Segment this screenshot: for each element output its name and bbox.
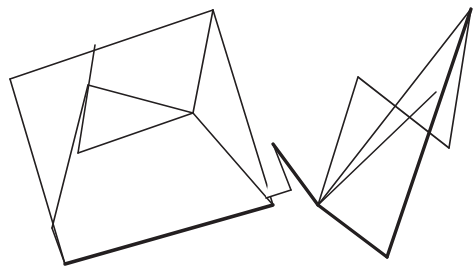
polygon-net-figure xyxy=(0,0,474,269)
drawing-canvas xyxy=(0,0,474,269)
